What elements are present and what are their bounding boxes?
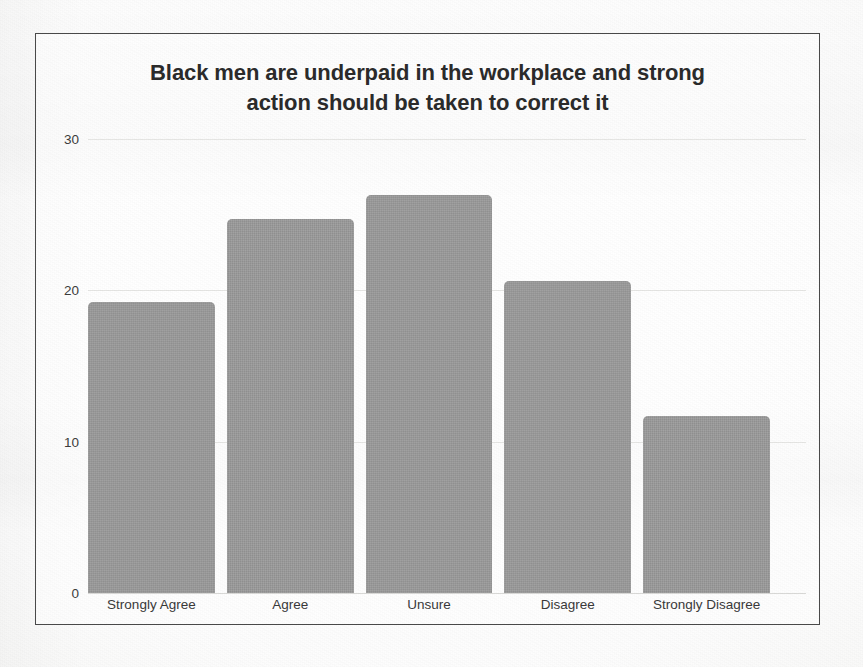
bar-strongly-agree[interactable]	[88, 302, 215, 593]
bar-slot-disagree: Disagree	[504, 139, 631, 593]
y-axis-tick-30: 30	[64, 132, 79, 147]
bar-slot-agree: Agree	[227, 139, 354, 593]
y-axis-tick-10: 10	[64, 434, 79, 449]
gridline-0: 0	[88, 593, 806, 594]
x-axis-label-unsure: Unsure	[407, 597, 451, 612]
chart-title-line-1: Black men are underpaid in the workplace…	[150, 60, 705, 85]
x-axis-label-strongly-agree: Strongly Agree	[107, 597, 196, 612]
scanned-page-background: Black men are underpaid in the workplace…	[0, 0, 863, 667]
bar-slot-strongly-agree: Strongly Agree	[88, 139, 215, 593]
chart-title-line-2: action should be taken to correct it	[247, 90, 609, 115]
plot-area: 30 20 10 0 Strongly Agree Agree	[88, 139, 770, 593]
bar-unsure[interactable]	[366, 195, 493, 593]
x-axis-label-strongly-disagree: Strongly Disagree	[653, 597, 760, 612]
bar-agree[interactable]	[227, 219, 354, 593]
bar-strongly-disagree[interactable]	[643, 416, 770, 593]
chart-title: Black men are underpaid in the workplace…	[84, 58, 771, 119]
bar-slot-unsure: Unsure	[366, 139, 493, 593]
bar-disagree[interactable]	[504, 281, 631, 593]
chart-frame: Black men are underpaid in the workplace…	[35, 33, 820, 625]
y-axis-tick-0: 0	[71, 586, 79, 601]
y-axis-tick-20: 20	[64, 283, 79, 298]
x-axis-label-agree: Agree	[272, 597, 308, 612]
x-axis-label-disagree: Disagree	[541, 597, 595, 612]
bar-slot-strongly-disagree: Strongly Disagree	[643, 139, 770, 593]
bar-series: Strongly Agree Agree Unsure Disagree	[88, 139, 770, 593]
